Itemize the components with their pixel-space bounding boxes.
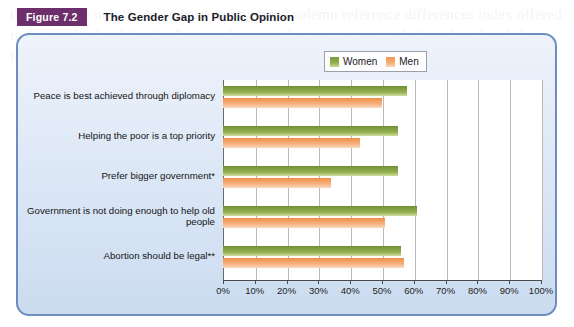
- bar-women-3: [223, 206, 417, 216]
- category-label-4: Abortion should be legal**: [18, 250, 215, 262]
- bar-men-0: [223, 98, 382, 108]
- gridline-100: [542, 80, 543, 280]
- bar-men-1: [223, 138, 360, 148]
- figure-title: The Gender Gap in Public Opinion: [104, 11, 294, 23]
- x-tick-60: [414, 280, 415, 284]
- x-tick-10: [255, 280, 256, 284]
- x-tick-20: [287, 280, 288, 284]
- x-tick-40: [350, 280, 351, 284]
- category-label-2: Prefer bigger government*: [18, 170, 215, 182]
- figure-number-badge: Figure 7.2: [17, 8, 87, 26]
- bar-women-2: [223, 166, 398, 176]
- x-tick-90: [509, 280, 510, 284]
- x-tick-label-50: 50%: [372, 285, 391, 296]
- legend-item-women: Women: [330, 56, 377, 67]
- x-tick-30: [318, 280, 319, 284]
- category-label-0: Peace is best achieved through diplomacy: [18, 90, 215, 102]
- category-label-1: Helping the poor is a top priority: [18, 130, 215, 142]
- gridline-70: [447, 80, 448, 280]
- x-tick-label-0: 0%: [216, 285, 230, 296]
- bar-men-4: [223, 258, 404, 268]
- figure-header: Figure 7.2 The Gender Gap in Public Opin…: [17, 8, 294, 26]
- x-tick-0: [223, 280, 224, 284]
- x-tick-80: [477, 280, 478, 284]
- bar-men-2: [223, 178, 331, 188]
- x-tick-label-30: 30%: [309, 285, 328, 296]
- gridline-60: [415, 80, 416, 280]
- x-tick-label-100: 100%: [529, 285, 553, 296]
- x-tick-label-80: 80%: [468, 285, 487, 296]
- bar-women-0: [223, 86, 407, 96]
- gridline-80: [478, 80, 479, 280]
- legend-label-men: Men: [399, 56, 418, 67]
- bar-women-1: [223, 126, 398, 136]
- x-tick-label-10: 10%: [245, 285, 264, 296]
- legend-item-men: Men: [386, 56, 418, 67]
- category-label-3: Government is not doing enough to help o…: [18, 205, 215, 228]
- bar-men-3: [223, 218, 385, 228]
- x-tick-50: [382, 280, 383, 284]
- x-tick-label-20: 20%: [277, 285, 296, 296]
- x-tick-100: [541, 280, 542, 284]
- x-tick-70: [446, 280, 447, 284]
- men-swatch-icon: [386, 57, 395, 67]
- x-tick-label-90: 90%: [500, 285, 519, 296]
- x-tick-label-40: 40%: [341, 285, 360, 296]
- chart-panel: Women Men 0%10%20%30%40%50%60%70%80%90%1…: [16, 33, 557, 316]
- x-tick-label-70: 70%: [436, 285, 455, 296]
- chart-legend: Women Men: [324, 51, 427, 72]
- legend-label-women: Women: [343, 56, 377, 67]
- x-tick-label-60: 60%: [404, 285, 423, 296]
- women-swatch-icon: [330, 57, 339, 67]
- gridline-90: [510, 80, 511, 280]
- bar-women-4: [223, 246, 401, 256]
